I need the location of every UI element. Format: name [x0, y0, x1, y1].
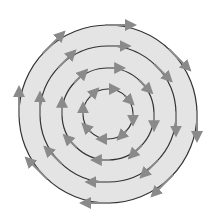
vector-field-svg [0, 0, 216, 224]
vector-field-diagram [0, 0, 216, 224]
